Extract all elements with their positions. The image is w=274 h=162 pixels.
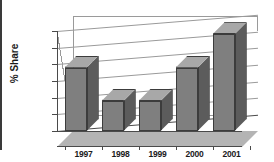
x-axis-line <box>57 146 242 147</box>
bar-front-face <box>139 101 161 131</box>
bar-column[interactable] <box>213 22 247 131</box>
bar-front-face <box>102 101 124 131</box>
bar-column[interactable] <box>65 56 99 131</box>
bar-front-face <box>65 68 87 131</box>
bar-side-face <box>87 56 99 131</box>
x-axis-tick-labels: 19971998199920002001 <box>57 148 258 162</box>
bar-front-face <box>176 68 198 131</box>
x-axis-tick <box>250 146 251 150</box>
y-axis-title: % Share <box>9 34 20 94</box>
x-axis-tick-label: 1999 <box>138 149 178 159</box>
bar-column[interactable] <box>139 89 173 131</box>
x-axis-tick <box>139 146 140 150</box>
x-axis-tick-label: 1998 <box>101 149 141 159</box>
plot-floor <box>57 131 258 147</box>
x-axis-tick-label: 2001 <box>212 149 252 159</box>
x-axis-tick-label: 1997 <box>64 149 104 159</box>
x-axis-tick-label: 2000 <box>175 149 215 159</box>
x-axis-tick <box>213 146 214 150</box>
x-axis-tick <box>102 146 103 150</box>
y-axis-line-front <box>57 31 58 131</box>
bar-side-face <box>235 22 247 131</box>
bar-column[interactable] <box>176 56 210 131</box>
bar-chart-figure: 56%57%58%59%60%61%62% % Share 1997199819… <box>0 0 274 162</box>
bar-front-face <box>213 34 235 131</box>
x-axis-tick <box>65 146 66 150</box>
x-axis-tick <box>176 146 177 150</box>
bar-side-face <box>198 56 210 131</box>
plot-floor-edge <box>57 131 242 132</box>
bar-column[interactable] <box>102 89 136 131</box>
